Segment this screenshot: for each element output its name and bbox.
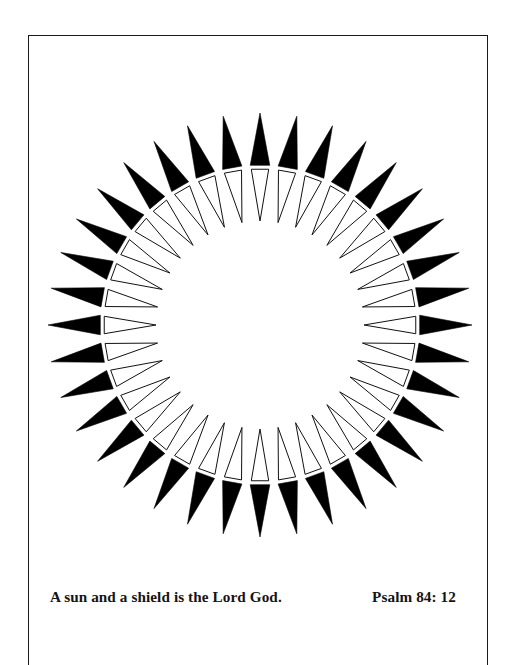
sun-ray-white xyxy=(104,316,156,333)
sun-ray-white xyxy=(105,289,157,307)
caption: A sun and a shield is the Lord God. Psal… xyxy=(50,588,470,612)
sun-ray-black xyxy=(420,315,472,335)
sun-ray-black xyxy=(331,141,366,191)
sun-ray-white xyxy=(362,343,414,361)
sun-ray-black xyxy=(98,189,144,230)
sun-ray-white xyxy=(224,427,242,479)
sun-ray-black xyxy=(305,126,332,178)
sun-ray-black xyxy=(187,472,214,524)
sun-ray-black xyxy=(393,219,443,254)
sun-ray-black xyxy=(416,343,469,362)
sun-ray-black xyxy=(305,472,332,524)
sun-ray-black xyxy=(76,396,126,431)
sun-ray-white xyxy=(251,169,268,221)
sun-ray-black xyxy=(355,163,396,209)
sun-ray-black xyxy=(124,163,165,209)
sun-ray-black xyxy=(61,252,113,279)
sun-ray-white xyxy=(364,316,416,333)
sun-ray-white xyxy=(278,427,296,479)
sun-ray-white xyxy=(224,170,242,222)
sun-ray-black xyxy=(278,481,297,534)
sun-ray-black xyxy=(124,441,165,487)
sun-ray-white xyxy=(278,170,296,222)
white-inner-rays xyxy=(104,169,416,481)
sun-ray-black xyxy=(223,116,242,169)
caption-verse-text: A sun and a shield is the Lord God. xyxy=(50,588,282,606)
sun-ray-black xyxy=(51,288,104,307)
sun-illustration xyxy=(28,35,488,560)
sun-ray-black xyxy=(154,141,189,191)
sun-ray-black xyxy=(376,189,422,230)
sun-ray-black xyxy=(223,481,242,534)
sun-ray-black xyxy=(376,420,422,461)
sun-ray-black xyxy=(250,485,270,537)
sun-ray-black xyxy=(355,441,396,487)
sun-ray-black xyxy=(278,116,297,169)
sun-ray-black xyxy=(416,288,469,307)
sun-ray-white xyxy=(105,343,157,361)
sun-ray-black xyxy=(98,420,144,461)
sun-ray-white xyxy=(362,289,414,307)
sun-ray-black xyxy=(61,370,113,397)
sun-ray-black xyxy=(48,315,100,335)
sun-ray-black xyxy=(154,458,189,508)
sun-ray-black xyxy=(250,113,270,165)
sun-ray-black xyxy=(331,458,366,508)
sun-ray-black xyxy=(393,396,443,431)
sun-ray-black xyxy=(187,126,214,178)
sun-ray-black xyxy=(51,343,104,362)
sun-ray-black xyxy=(407,370,459,397)
sun-ray-black xyxy=(407,252,459,279)
sunburst-svg xyxy=(28,35,488,560)
sun-ray-black xyxy=(76,219,126,254)
caption-scripture-reference: Psalm 84: 12 xyxy=(372,588,470,606)
sun-ray-white xyxy=(251,429,268,481)
